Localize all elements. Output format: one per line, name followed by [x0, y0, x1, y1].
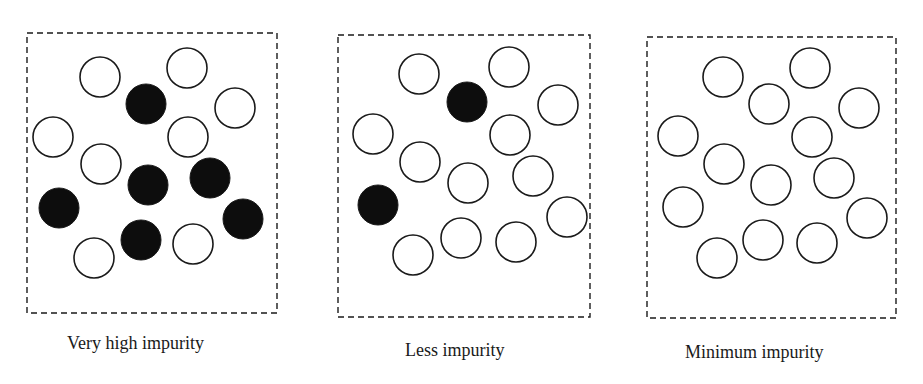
panel-very-high-impurity — [27, 33, 277, 313]
pure-atom-circle — [448, 163, 488, 203]
pure-atom-circle — [81, 144, 121, 184]
impurity-atom-circle — [121, 220, 161, 260]
pure-atom-circle — [658, 116, 698, 156]
pure-atom-circle — [33, 117, 73, 157]
impurity-atom-circle — [128, 165, 168, 205]
pure-atom-circle — [74, 238, 114, 278]
pure-atom-circle — [496, 222, 536, 262]
panel-label-less-impurity: Less impurity — [405, 340, 505, 361]
pure-atom-circle — [704, 144, 744, 184]
pure-atom-circle — [490, 115, 530, 155]
pure-atom-circle — [749, 84, 789, 124]
pure-atom-circle — [489, 47, 529, 87]
pure-atom-circle — [847, 198, 887, 238]
impurity-atom-circle — [126, 84, 166, 124]
pure-atom-circle — [393, 235, 433, 275]
pure-atom-circle — [80, 57, 120, 97]
impurity-diagram — [0, 0, 923, 384]
pure-atom-circle — [751, 165, 791, 205]
pure-atom-circle — [703, 57, 743, 97]
pure-atom-circle — [167, 48, 207, 88]
impurity-atom-circle — [39, 188, 79, 228]
impurity-atom-circle — [447, 82, 487, 122]
pure-atom-circle — [697, 238, 737, 278]
pure-atom-circle — [215, 88, 255, 128]
impurity-atom-circle — [223, 199, 263, 239]
impurity-atom-circle — [190, 158, 230, 198]
pure-atom-circle — [790, 48, 830, 88]
pure-atom-circle — [814, 158, 854, 198]
pure-atom-circle — [399, 54, 439, 94]
pure-atom-circle — [547, 197, 587, 237]
pure-atom-circle — [663, 187, 703, 227]
pure-atom-circle — [743, 220, 783, 260]
pure-atom-circle — [797, 223, 837, 263]
panel-minimum-impurity — [647, 37, 896, 318]
pure-atom-circle — [839, 88, 879, 128]
panel-label-minimum-impurity: Minimum impurity — [685, 342, 824, 363]
pure-atom-circle — [513, 156, 553, 196]
pure-atom-circle — [173, 224, 213, 264]
panel-less-impurity — [338, 35, 590, 317]
pure-atom-circle — [441, 218, 481, 258]
pure-atom-circle — [538, 85, 578, 125]
pure-atom-circle — [353, 114, 393, 154]
impurity-atom-circle — [358, 185, 398, 225]
panel-label-very-high-impurity: Very high impurity — [67, 333, 204, 354]
pure-atom-circle — [792, 117, 832, 157]
pure-atom-circle — [168, 117, 208, 157]
pure-atom-circle — [400, 142, 440, 182]
